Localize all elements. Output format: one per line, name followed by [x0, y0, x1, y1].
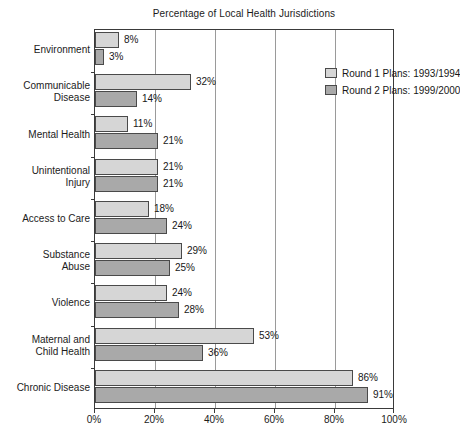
- category-label: SubstanceAbuse: [2, 249, 90, 273]
- bar-r2: [95, 260, 170, 276]
- category-axis-labels: EnvironmentCommunicableDiseaseMental Hea…: [0, 29, 90, 409]
- category-label-line: Substance: [2, 249, 90, 261]
- category-label-line: Injury: [2, 177, 90, 189]
- category-tick: [91, 157, 95, 158]
- bar-group: 21%21%: [95, 157, 393, 199]
- value-tick-label: 60%: [264, 414, 284, 425]
- bar-value-label: 11%: [133, 116, 152, 132]
- bar-group: 18%24%: [95, 199, 393, 241]
- value-tick-label: 40%: [204, 414, 224, 425]
- bar-value-label: 18%: [154, 201, 174, 217]
- bar-r1: [95, 285, 167, 301]
- category-label-line: Maternal and: [2, 334, 90, 346]
- legend-swatch-icon: [325, 85, 337, 95]
- bar-value-label: 36%: [208, 345, 228, 361]
- value-tick-mark: [94, 409, 95, 413]
- category-label-line: Mental Health: [2, 129, 90, 141]
- bar-value-label: 25%: [175, 260, 195, 276]
- category-label: Maternal andChild Health: [2, 334, 90, 358]
- bar-value-label: 53%: [259, 328, 279, 344]
- plot-area: 8%3%32%14%11%21%21%21%18%24%29%25%24%28%…: [94, 29, 394, 409]
- category-label: Violence: [2, 297, 90, 309]
- category-label: Environment: [2, 44, 90, 56]
- category-label-line: Unintentional: [2, 165, 90, 177]
- legend-item: Round 1 Plans: 1993/1994: [325, 66, 460, 80]
- chart-title: Percentage of Local Health Jurisdictions: [94, 8, 394, 19]
- value-tick-label: 100%: [381, 414, 407, 425]
- bar-value-label: 29%: [187, 243, 207, 259]
- bar-r2: [95, 387, 368, 403]
- value-tick-label: 80%: [324, 414, 344, 425]
- bar-value-label: 32%: [196, 74, 216, 90]
- legend-swatch-icon: [325, 68, 337, 78]
- bar-value-label: 86%: [358, 370, 378, 386]
- bar-r2: [95, 49, 104, 65]
- category-label-line: Violence: [2, 297, 90, 309]
- category-label: Mental Health: [2, 129, 90, 141]
- bar-value-label: 14%: [142, 91, 162, 107]
- category-label-line: Chronic Disease: [2, 382, 90, 394]
- category-label-line: Environment: [2, 44, 90, 56]
- bar-r2: [95, 91, 137, 107]
- bar-r1: [95, 370, 353, 386]
- legend-label: Round 1 Plans: 1993/1994: [342, 68, 460, 79]
- bar-value-label: 28%: [184, 302, 204, 318]
- bar-r1: [95, 116, 128, 132]
- bar-group: 53%36%: [95, 326, 393, 368]
- bar-r2: [95, 345, 203, 361]
- category-tick: [91, 72, 95, 73]
- bar-r2: [95, 176, 158, 192]
- category-label: UnintentionalInjury: [2, 165, 90, 189]
- bar-r1: [95, 32, 119, 48]
- value-axis: 0%20%40%60%80%100%: [94, 409, 394, 415]
- value-tick-mark: [393, 409, 394, 413]
- bar-value-label: 24%: [172, 285, 192, 301]
- bar-value-label: 8%: [124, 32, 138, 48]
- bar-value-label: 3%: [109, 49, 123, 65]
- value-tick-mark: [274, 409, 275, 413]
- bar-group: 11%21%: [95, 114, 393, 156]
- bar-r1: [95, 74, 191, 90]
- category-label: Access to Care: [2, 213, 90, 225]
- bar-group: 86%91%: [95, 368, 393, 410]
- category-label-line: Access to Care: [2, 213, 90, 225]
- bar-r2: [95, 302, 179, 318]
- legend: Round 1 Plans: 1993/1994Round 2 Plans: 1…: [325, 66, 460, 100]
- category-tick: [91, 326, 95, 327]
- category-tick: [91, 199, 95, 200]
- category-tick: [91, 368, 95, 369]
- legend-label: Round 2 Plans: 1999/2000: [342, 85, 460, 96]
- bar-value-label: 91%: [373, 387, 393, 403]
- bar-r2: [95, 218, 167, 234]
- bar-r1: [95, 201, 149, 217]
- category-tick: [91, 114, 95, 115]
- bar-r2: [95, 133, 158, 149]
- value-tick-label: 20%: [144, 414, 164, 425]
- category-label-line: Abuse: [2, 261, 90, 273]
- value-tick-mark: [334, 409, 335, 413]
- bar-group: 29%25%: [95, 241, 393, 283]
- category-label: CommunicableDisease: [2, 80, 90, 104]
- bar-value-label: 21%: [163, 133, 183, 149]
- bar-r1: [95, 159, 158, 175]
- category-label-line: Communicable: [2, 80, 90, 92]
- bar-value-label: 24%: [172, 218, 192, 234]
- bar-r1: [95, 243, 182, 259]
- value-tick-mark: [154, 409, 155, 413]
- category-label-line: Disease: [2, 92, 90, 104]
- category-tick: [91, 283, 95, 284]
- bar-value-label: 21%: [163, 159, 183, 175]
- bar-value-label: 21%: [163, 176, 183, 192]
- category-tick: [91, 241, 95, 242]
- legend-item: Round 2 Plans: 1999/2000: [325, 83, 460, 97]
- value-tick-label: 0%: [87, 414, 101, 425]
- category-label: Chronic Disease: [2, 382, 90, 394]
- bar-group: 24%28%: [95, 283, 393, 325]
- bar-r1: [95, 328, 254, 344]
- category-label-line: Child Health: [2, 346, 90, 358]
- value-tick-mark: [214, 409, 215, 413]
